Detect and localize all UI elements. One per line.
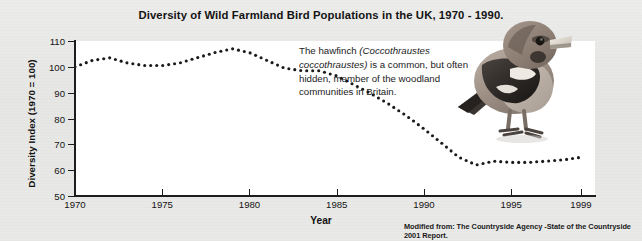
x-axis-line <box>74 195 596 197</box>
y-axis-tick <box>68 119 75 120</box>
x-axis-tick <box>75 189 76 196</box>
y-axis-tick <box>68 144 75 145</box>
x-axis-tick <box>424 189 425 196</box>
y-axis-tick <box>68 93 75 94</box>
x-axis-tick-label: 1970 <box>53 199 97 210</box>
figure-container: Diversity of Wild Farmland Bird Populati… <box>0 0 642 241</box>
x-axis-tick <box>249 189 250 196</box>
x-axis-tick-label: 1990 <box>402 199 446 210</box>
x-axis-tick-label: 1975 <box>140 199 184 210</box>
annotation-text: The hawfinch (Coccothraustes coccothraus… <box>299 44 471 99</box>
hawfinch-photo <box>452 3 574 155</box>
x-axis-tick <box>511 189 512 196</box>
y-axis-label: Diversity Index (1970 = 100) <box>26 49 37 199</box>
y-axis-tick-label: 110 <box>19 36 65 47</box>
x-axis-tick-label: 1995 <box>489 199 533 210</box>
y-axis-tick <box>68 196 75 197</box>
y-axis-tick <box>68 67 75 68</box>
x-axis-tick-label: 1980 <box>227 199 271 210</box>
x-axis-tick <box>162 189 163 196</box>
y-axis-tick <box>68 41 75 42</box>
x-axis-tick <box>337 189 338 196</box>
y-axis-tick <box>68 170 75 171</box>
x-axis-tick-label: 1999 <box>559 199 603 210</box>
x-axis-tick-label: 1985 <box>315 199 359 210</box>
source-note: Modified from: The Countryside Agency -S… <box>404 222 638 240</box>
x-axis-tick <box>581 189 582 196</box>
annotation-text-before: The hawfinch <box>299 45 359 56</box>
